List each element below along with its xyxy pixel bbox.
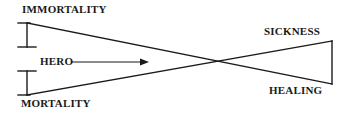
label-healing: HEALING (269, 85, 322, 96)
mortality-bracket-icon (18, 71, 36, 95)
bowtie-diagram: IMMORTALITY MORTALITY SICKNESS HEALING H… (0, 0, 356, 117)
label-immortality: IMMORTALITY (22, 4, 107, 15)
immortality-bracket-icon (18, 23, 36, 47)
label-hero: HERO (40, 56, 73, 67)
label-mortality: MORTALITY (21, 98, 91, 109)
label-sickness: SICKNESS (264, 26, 320, 37)
hero-arrow-icon (72, 59, 149, 66)
